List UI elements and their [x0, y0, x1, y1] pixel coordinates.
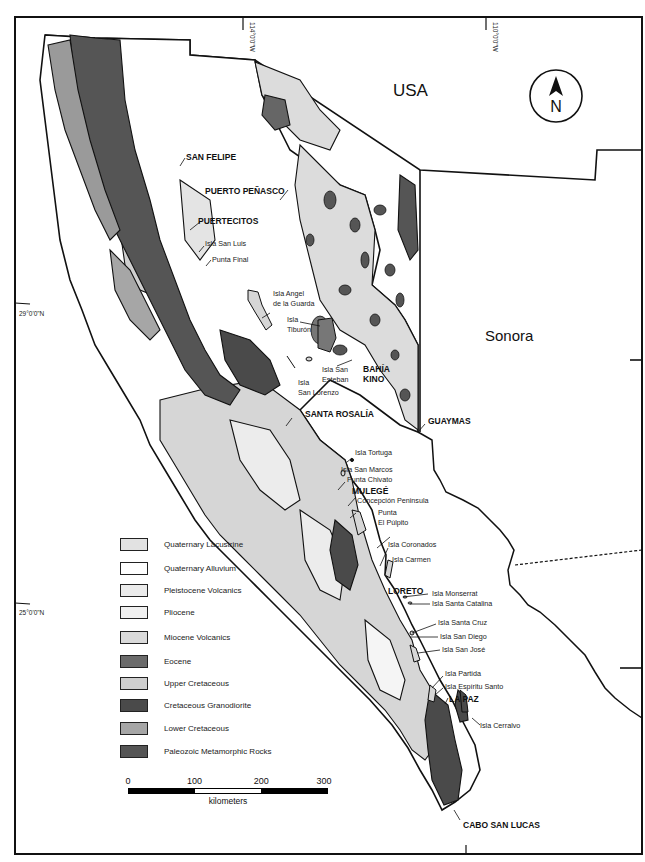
legend-swatch-cretaceous-granodiorite	[120, 699, 148, 712]
scale-tick-300: 300	[316, 776, 331, 786]
north-arrow-icon: N	[530, 70, 582, 122]
legend-label: Quaternary Lacustrine	[164, 540, 243, 549]
legend-item: Pliocene	[120, 604, 195, 620]
place-label-isla-san-luis: Isla San Luis	[205, 239, 247, 248]
legend-label: Lower Cretaceous	[164, 724, 229, 733]
legend-label: Eocene	[164, 657, 191, 666]
city-label-puertecitos: PUERTECITOS	[198, 216, 259, 226]
legend-label: Miocene Volcanics	[164, 633, 230, 642]
city-label-kino: KINO	[363, 374, 385, 384]
lat-label-29: 29°0'0"N	[19, 310, 45, 317]
place-label-punta-final: Punta Final	[212, 255, 249, 264]
legend-label: Quaternary Alluvium	[164, 564, 236, 573]
city-label-san-felipe: SAN FELIPE	[186, 152, 236, 162]
place-label-punta-pulpito-2: El Púlpito	[378, 518, 408, 527]
city-label-guaymas: GUAYMAS	[428, 416, 471, 426]
lon-label-114: 114°0'0"W	[249, 22, 256, 53]
city-label-cabo-san-lucas: CABO SAN LUCAS	[463, 820, 540, 830]
legend-swatch-quaternary-lacustrine	[120, 538, 148, 551]
place-label-isla-partida: Isla Partida	[445, 669, 481, 678]
country-label-usa: USA	[393, 81, 429, 100]
place-label-san-lorenzo-2: San Lorenzo	[298, 388, 339, 397]
place-label-isla-coronados: Isla Coronados	[388, 540, 437, 549]
city-label-puerto-penasco: PUERTO PEÑASCO	[205, 186, 285, 196]
legend-item: Quaternary Alluvium	[120, 560, 236, 576]
city-label-bahia: BAHÍA	[363, 364, 390, 374]
place-label-isla-tortuga: Isla Tortuga	[355, 448, 392, 457]
legend-item: Eocene	[120, 653, 191, 669]
place-label-isla-monserrat: Isla Monserrat	[432, 589, 478, 598]
legend-label: Cretaceous Granodiorite	[164, 701, 251, 710]
legend-swatch-pliocene	[120, 606, 148, 619]
legend-swatch-quaternary-alluvium	[120, 562, 148, 575]
place-label-san-esteban-2: Esteban	[322, 375, 348, 384]
place-label-isla-san-diego: Isla San Diego	[440, 632, 487, 641]
city-label-mulege: MULEGÉ	[352, 486, 389, 496]
place-label-isla-santa-cruz: Isla Santa Cruz	[438, 618, 488, 627]
place-label-san-lorenzo-1: Isla	[298, 378, 309, 387]
legend-item: Upper Cretaceous	[120, 675, 229, 691]
city-label-la-paz: LA PAZ	[449, 694, 479, 704]
legend-swatch-pleistocene-volcanics	[120, 584, 148, 597]
place-label-concepcion: Concepción Peninsula	[357, 496, 429, 505]
legend-item: Pleistocene Volcanics	[120, 582, 241, 598]
geologic-map: 114°0'0"W 110°0'0"W 29°0'0"N 25°0'0"N US…	[0, 0, 645, 862]
legend-label: Pleistocene Volcanics	[164, 586, 241, 595]
legend-item: Paleozoic Metamorphic Rocks	[120, 743, 272, 759]
scale-tick-100: 100	[187, 776, 202, 786]
legend-swatch-lower-cretaceous	[120, 722, 148, 735]
place-label-isla-espiritu-santo: Isla Espíritu Santo	[445, 682, 503, 691]
place-label-tiburon-2: Tiburón	[287, 325, 311, 334]
scale-bar-ticks: 0 100 200 300	[128, 776, 328, 788]
lat-label-25: 25°0'0"N	[19, 609, 45, 616]
lon-label-110: 110°0'0"W	[492, 22, 499, 53]
legend-item: Miocene Volcanics	[120, 629, 230, 645]
place-label-isla-cerralvo: Isla Cerralvo	[480, 721, 520, 730]
place-label-isla-san-jose: Isla San José	[442, 645, 485, 654]
legend-swatch-eocene	[120, 655, 148, 668]
region-label-sonora: Sonora	[485, 327, 534, 344]
north-letter: N	[550, 98, 562, 115]
legend-item: Quaternary Lacustrine	[120, 536, 243, 552]
scale-bar-graphic	[128, 788, 328, 794]
city-label-santa-rosalia: SANTA ROSALÍA	[305, 409, 374, 419]
legend-item: Lower Cretaceous	[120, 720, 229, 736]
place-label-punta-chivato: Punta Chivato	[347, 475, 392, 484]
legend-label: Paleozoic Metamorphic Rocks	[164, 747, 272, 756]
legend-swatch-paleozoic-metamorphic	[120, 745, 148, 758]
place-label-isla-angel-2: de la Guarda	[273, 299, 315, 308]
place-label-tiburon-1: Isla	[287, 315, 298, 324]
scale-bar-unit: kilometers	[128, 796, 328, 806]
scale-tick-0: 0	[125, 776, 130, 786]
scale-tick-200: 200	[254, 776, 269, 786]
legend-label: Upper Cretaceous	[164, 679, 229, 688]
place-label-isla-carmen: Isla Carmen	[392, 555, 431, 564]
place-label-san-esteban-1: Isla San	[322, 365, 348, 374]
place-label-isla-san-marcos: Isla San Marcos	[341, 465, 393, 474]
legend-item: Cretaceous Granodiorite	[120, 697, 251, 713]
place-label-punta-pulpito-1: Punta	[378, 508, 397, 517]
legend-label: Pliocene	[164, 608, 195, 617]
scale-bar: 0 100 200 300 kilometers	[128, 776, 328, 806]
legend-swatch-upper-cretaceous	[120, 677, 148, 690]
place-label-isla-angel-1: Isla Angel	[273, 289, 305, 298]
legend-swatch-miocene-volcanics	[120, 631, 148, 644]
place-label-isla-santa-catalina: Isla Santa Catalina	[432, 599, 492, 608]
city-label-loreto: LORETO	[388, 586, 424, 596]
